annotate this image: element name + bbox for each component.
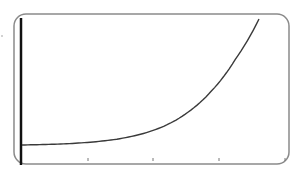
chart-canvas [0,0,292,176]
x-ticks [88,158,285,161]
chart-frame [14,14,289,164]
data-line [22,19,259,145]
edge-mark [1,35,3,37]
